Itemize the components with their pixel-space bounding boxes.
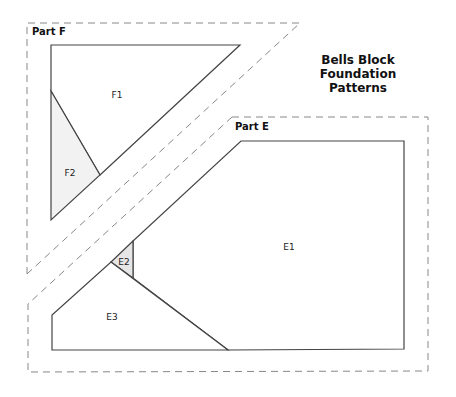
- piece-f2-label: F2: [65, 168, 76, 178]
- piece-f1-label: F1: [112, 90, 123, 100]
- piece-e1-label: E1: [283, 242, 294, 252]
- piece-e2-label: E2: [118, 257, 129, 267]
- part-f-label: Part F: [32, 26, 66, 37]
- piece-e3-label: E3: [106, 312, 117, 322]
- title-line-1: Bells Block: [290, 53, 426, 67]
- part-e-label: Part E: [235, 121, 269, 132]
- title-line-2: Foundation Patterns: [290, 67, 426, 95]
- diagram-title: Bells Block Foundation Patterns: [290, 53, 426, 95]
